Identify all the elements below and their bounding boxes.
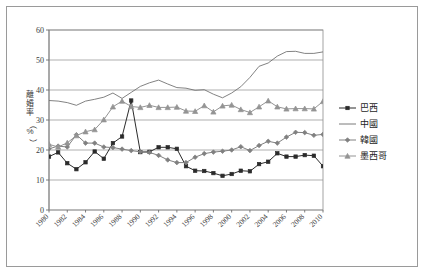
x-tick-label: 1986	[88, 212, 105, 229]
data-point-marker	[102, 145, 107, 150]
legend-item-label: 墨西哥	[360, 151, 387, 161]
figure-root: 0102030405060 19801982198419861988199019…	[0, 0, 425, 274]
data-point-marker	[203, 169, 206, 172]
data-point-marker	[102, 157, 105, 160]
series-line	[49, 132, 323, 162]
data-point-marker	[275, 104, 280, 109]
data-point-marker	[157, 146, 160, 149]
data-point-marker	[120, 147, 125, 152]
data-point-marker	[345, 138, 350, 143]
data-point-marker	[92, 141, 97, 146]
x-tick-label: 1994	[161, 212, 178, 229]
data-point-marker	[110, 104, 115, 109]
data-point-marker	[293, 130, 298, 135]
data-point-marker	[239, 144, 244, 149]
legend-item-label: 巴西	[360, 103, 378, 113]
series-line	[49, 51, 323, 105]
y-axis-title-char: ）	[28, 139, 37, 147]
data-point-marker	[312, 133, 317, 138]
data-point-marker	[120, 135, 123, 138]
data-point-marker	[221, 174, 224, 177]
series-2	[47, 130, 326, 165]
data-point-marker	[302, 130, 307, 135]
x-tick-label: 1998	[198, 212, 215, 229]
data-point-marker	[321, 165, 324, 168]
data-point-marker	[193, 155, 198, 160]
data-point-marker	[129, 148, 134, 153]
y-axis-title-char: 率	[26, 107, 34, 117]
x-tick-label: 2000	[216, 212, 233, 229]
data-point-marker	[175, 160, 180, 165]
legend-item-label: 韓國	[360, 135, 378, 145]
data-point-marker	[75, 168, 78, 171]
data-point-marker	[229, 148, 234, 153]
data-point-marker	[66, 162, 69, 165]
data-point-marker	[248, 170, 251, 173]
data-point-marker	[166, 146, 169, 149]
y-tick-label: 60	[36, 26, 44, 35]
data-point-marker	[211, 109, 216, 114]
data-point-marker	[303, 153, 306, 156]
data-point-marker	[111, 141, 114, 144]
x-tick-label: 1988	[107, 212, 124, 229]
data-point-marker	[119, 99, 124, 104]
data-series-group	[46, 51, 325, 177]
data-point-marker	[46, 142, 51, 147]
data-point-marker	[266, 139, 271, 144]
gridlines	[49, 30, 323, 210]
data-point-marker	[320, 99, 325, 104]
y-axis-title-char: 離	[26, 89, 34, 99]
data-point-marker	[248, 148, 253, 153]
data-point-marker	[202, 151, 207, 156]
data-point-marker	[267, 160, 270, 163]
data-point-marker	[239, 169, 242, 172]
x-tick-label: 1990	[125, 212, 142, 229]
x-tick-label: 2006	[271, 212, 288, 229]
data-point-marker	[193, 169, 196, 172]
data-point-marker	[84, 161, 87, 164]
x-tick-label: 2004	[253, 212, 270, 229]
data-point-marker	[257, 143, 262, 148]
data-point-marker	[285, 155, 288, 158]
y-axis-title-char: %	[26, 127, 33, 136]
y-tick-label: 10	[36, 176, 44, 185]
data-point-marker	[257, 162, 260, 165]
chart-legend: 巴西中國韓國墨西哥	[339, 103, 387, 161]
data-point-marker	[56, 151, 59, 154]
data-point-marker	[147, 103, 152, 108]
data-point-marker	[211, 150, 216, 155]
x-axis-tick-labels: 1980198219841986198819901992199419961998…	[33, 210, 324, 229]
data-point-marker	[212, 171, 215, 174]
data-point-marker	[47, 155, 50, 158]
y-tick-label: 50	[36, 56, 44, 65]
legend-item-label: 中國	[360, 118, 378, 129]
data-point-marker	[165, 158, 170, 163]
data-point-marker	[93, 150, 96, 153]
x-tick-label: 2008	[289, 212, 306, 229]
x-tick-label: 1992	[143, 212, 160, 229]
x-tick-label: 1996	[180, 212, 197, 229]
data-point-marker	[130, 99, 133, 102]
data-point-marker	[175, 147, 178, 150]
y-tick-label: 20	[36, 146, 44, 155]
data-point-marker	[156, 153, 161, 158]
x-tick-label: 1984	[70, 212, 87, 229]
data-point-marker	[321, 132, 326, 137]
series-3	[46, 98, 325, 149]
data-point-marker	[230, 172, 233, 175]
data-point-marker	[276, 152, 279, 155]
data-point-marker	[220, 149, 225, 154]
data-point-marker	[346, 106, 349, 109]
x-tick-label: 2010	[307, 212, 324, 229]
x-tick-label: 2002	[234, 212, 251, 229]
data-point-marker	[312, 154, 315, 157]
y-axis-title-char: 婚	[26, 98, 34, 108]
x-tick-label: 1982	[52, 212, 69, 229]
data-point-marker	[266, 98, 271, 103]
series-1	[49, 51, 323, 105]
x-tick-label: 1980	[33, 212, 50, 229]
data-point-marker	[294, 155, 297, 158]
line-chart: 0102030405060 19801982198419861988199019…	[0, 0, 425, 274]
data-point-marker	[202, 103, 207, 108]
data-point-marker	[256, 104, 261, 109]
